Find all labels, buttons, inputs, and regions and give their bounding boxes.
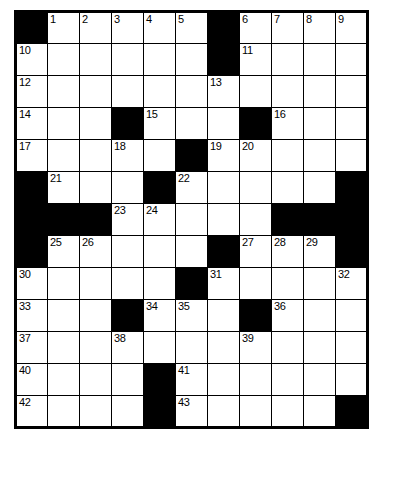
- crossword-cell[interactable]: [144, 44, 176, 76]
- crossword-cell-numbered[interactable]: 40: [16, 364, 48, 396]
- crossword-grid[interactable]: 1234567891011121314151617181920212223242…: [14, 10, 369, 429]
- crossword-cell[interactable]: [336, 108, 368, 140]
- crossword-cell-numbered[interactable]: 35: [176, 300, 208, 332]
- crossword-cell[interactable]: [272, 140, 304, 172]
- crossword-cell[interactable]: [208, 204, 240, 236]
- crossword-cell[interactable]: [272, 172, 304, 204]
- crossword-cell[interactable]: [48, 300, 80, 332]
- crossword-cell-numbered[interactable]: 21: [48, 172, 80, 204]
- crossword-cell[interactable]: [272, 332, 304, 364]
- crossword-cell-numbered[interactable]: 15: [144, 108, 176, 140]
- crossword-cell[interactable]: [336, 364, 368, 396]
- crossword-cell[interactable]: [304, 140, 336, 172]
- crossword-cell[interactable]: [176, 204, 208, 236]
- crossword-cell-numbered[interactable]: 41: [176, 364, 208, 396]
- crossword-cell-numbered[interactable]: 31: [208, 268, 240, 300]
- crossword-cell[interactable]: [144, 236, 176, 268]
- crossword-cell[interactable]: [80, 108, 112, 140]
- crossword-cell-numbered[interactable]: 34: [144, 300, 176, 332]
- crossword-cell-numbered[interactable]: 4: [144, 12, 176, 44]
- crossword-cell-numbered[interactable]: 2: [80, 12, 112, 44]
- crossword-cell[interactable]: [48, 76, 80, 108]
- crossword-cell[interactable]: [144, 140, 176, 172]
- crossword-cell[interactable]: [336, 332, 368, 364]
- crossword-cell-numbered[interactable]: 32: [336, 268, 368, 300]
- crossword-cell[interactable]: [208, 332, 240, 364]
- crossword-cell-numbered[interactable]: 7: [272, 12, 304, 44]
- crossword-cell[interactable]: [304, 364, 336, 396]
- crossword-cell-numbered[interactable]: 17: [16, 140, 48, 172]
- crossword-cell[interactable]: [304, 172, 336, 204]
- crossword-cell[interactable]: [240, 364, 272, 396]
- crossword-cell-numbered[interactable]: 30: [16, 268, 48, 300]
- crossword-cell-numbered[interactable]: 36: [272, 300, 304, 332]
- crossword-cell-numbered[interactable]: 14: [16, 108, 48, 140]
- crossword-cell-numbered[interactable]: 43: [176, 396, 208, 428]
- crossword-cell[interactable]: [80, 172, 112, 204]
- crossword-cell[interactable]: [48, 108, 80, 140]
- crossword-cell[interactable]: [240, 268, 272, 300]
- crossword-cell[interactable]: [80, 76, 112, 108]
- crossword-cell-numbered[interactable]: 22: [176, 172, 208, 204]
- crossword-cell-numbered[interactable]: 29: [304, 236, 336, 268]
- crossword-cell-numbered[interactable]: 24: [144, 204, 176, 236]
- crossword-cell[interactable]: [48, 140, 80, 172]
- crossword-cell-numbered[interactable]: 38: [112, 332, 144, 364]
- crossword-cell-numbered[interactable]: 42: [16, 396, 48, 428]
- crossword-cell[interactable]: [272, 76, 304, 108]
- crossword-cell[interactable]: [336, 76, 368, 108]
- crossword-cell[interactable]: [112, 44, 144, 76]
- crossword-cell-numbered[interactable]: 18: [112, 140, 144, 172]
- crossword-cell[interactable]: [48, 396, 80, 428]
- crossword-cell-numbered[interactable]: 6: [240, 12, 272, 44]
- crossword-cell[interactable]: [176, 76, 208, 108]
- crossword-cell-numbered[interactable]: 10: [16, 44, 48, 76]
- crossword-cell-numbered[interactable]: 39: [240, 332, 272, 364]
- crossword-cell[interactable]: [112, 364, 144, 396]
- crossword-cell-numbered[interactable]: 28: [272, 236, 304, 268]
- crossword-cell[interactable]: [176, 44, 208, 76]
- crossword-cell[interactable]: [176, 332, 208, 364]
- crossword-cell[interactable]: [304, 332, 336, 364]
- crossword-cell-numbered[interactable]: 9: [336, 12, 368, 44]
- crossword-cell[interactable]: [80, 140, 112, 172]
- crossword-cell[interactable]: [112, 172, 144, 204]
- crossword-cell[interactable]: [208, 300, 240, 332]
- crossword-cell[interactable]: [336, 44, 368, 76]
- crossword-cell-numbered[interactable]: 23: [112, 204, 144, 236]
- crossword-cell-numbered[interactable]: 11: [240, 44, 272, 76]
- crossword-cell[interactable]: [176, 236, 208, 268]
- crossword-cell-numbered[interactable]: 37: [16, 332, 48, 364]
- crossword-cell[interactable]: [272, 364, 304, 396]
- crossword-cell-numbered[interactable]: 26: [80, 236, 112, 268]
- crossword-cell[interactable]: [208, 172, 240, 204]
- crossword-cell[interactable]: [304, 44, 336, 76]
- crossword-cell-numbered[interactable]: 13: [208, 76, 240, 108]
- crossword-cell-numbered[interactable]: 1: [48, 12, 80, 44]
- crossword-cell[interactable]: [144, 268, 176, 300]
- crossword-cell-numbered[interactable]: 20: [240, 140, 272, 172]
- crossword-cell[interactable]: [208, 108, 240, 140]
- crossword-cell[interactable]: [176, 108, 208, 140]
- crossword-cell[interactable]: [304, 268, 336, 300]
- crossword-cell[interactable]: [48, 364, 80, 396]
- crossword-cell[interactable]: [112, 76, 144, 108]
- crossword-cell[interactable]: [240, 172, 272, 204]
- crossword-cell-numbered[interactable]: 27: [240, 236, 272, 268]
- crossword-cell[interactable]: [208, 364, 240, 396]
- crossword-cell-numbered[interactable]: 3: [112, 12, 144, 44]
- crossword-cell[interactable]: [272, 44, 304, 76]
- crossword-cell[interactable]: [80, 364, 112, 396]
- crossword-cell[interactable]: [304, 108, 336, 140]
- crossword-cell[interactable]: [208, 396, 240, 428]
- crossword-cell[interactable]: [144, 332, 176, 364]
- crossword-cell-numbered[interactable]: 8: [304, 12, 336, 44]
- crossword-cell[interactable]: [48, 268, 80, 300]
- crossword-cell[interactable]: [272, 268, 304, 300]
- crossword-cell[interactable]: [112, 236, 144, 268]
- crossword-cell[interactable]: [304, 396, 336, 428]
- crossword-cell-numbered[interactable]: 5: [176, 12, 208, 44]
- crossword-cell[interactable]: [112, 396, 144, 428]
- crossword-cell-numbered[interactable]: 33: [16, 300, 48, 332]
- crossword-cell[interactable]: [304, 300, 336, 332]
